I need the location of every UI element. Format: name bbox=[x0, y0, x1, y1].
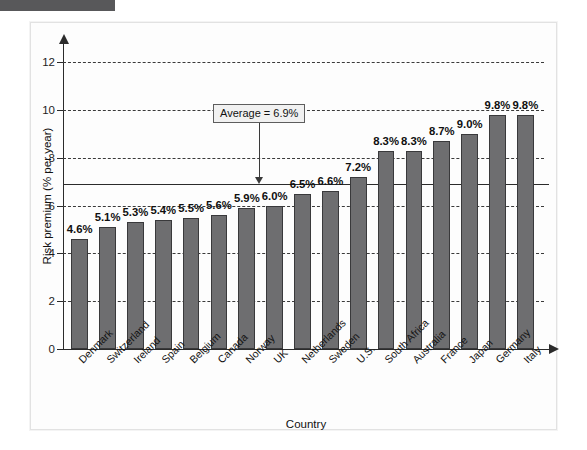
page-header-marker bbox=[0, 0, 115, 11]
y-tick-label-4: 4 bbox=[37, 247, 55, 259]
bar bbox=[378, 151, 395, 349]
bar-series: 4.6%5.1%5.3%5.4%5.5%5.6%5.9%6.0%6.5%6.6%… bbox=[63, 43, 549, 349]
bar-value-label: 9.8% bbox=[512, 99, 538, 111]
plot-area: 024681012 Average = 6.9% 4.6%5.1%5.3%5.4… bbox=[63, 43, 549, 349]
bar bbox=[350, 177, 367, 349]
y-tick-label-10: 10 bbox=[37, 104, 55, 116]
bar-value-label: 8.3% bbox=[373, 135, 399, 147]
bar-value-label: 6.5% bbox=[290, 178, 316, 190]
y-axis-title: Risk premium (% per year) bbox=[41, 128, 53, 265]
figure-stage: Risk premium (% per year) 024681012 Aver… bbox=[0, 0, 587, 450]
bar-value-label: 5.5% bbox=[178, 202, 204, 214]
bar-value-label: 5.9% bbox=[234, 192, 260, 204]
bar-value-label: 9.8% bbox=[485, 99, 511, 111]
bar bbox=[294, 194, 311, 349]
y-tick-label-0: 0 bbox=[37, 343, 55, 355]
bar bbox=[517, 115, 534, 349]
chart-panel: Risk premium (% per year) 024681012 Aver… bbox=[30, 22, 557, 430]
bar-value-label: 5.4% bbox=[150, 204, 176, 216]
y-tick-label-2: 2 bbox=[37, 295, 55, 307]
bar-value-label: 5.1% bbox=[95, 211, 121, 223]
bar bbox=[266, 206, 283, 349]
bar-value-label: 6.0% bbox=[262, 190, 288, 202]
bar-value-label: 5.6% bbox=[206, 199, 232, 211]
y-tick-label-8: 8 bbox=[37, 152, 55, 164]
bar bbox=[433, 141, 450, 349]
bar-value-label: 9.0% bbox=[457, 118, 483, 130]
bar-value-label: 8.3% bbox=[401, 135, 427, 147]
bar-value-label: 7.2% bbox=[345, 161, 371, 173]
bar bbox=[71, 239, 88, 349]
x-axis-arrow bbox=[549, 344, 559, 354]
bar-value-label: 4.6% bbox=[67, 223, 93, 235]
y-tick-label-6: 6 bbox=[37, 200, 55, 212]
bar bbox=[238, 208, 255, 349]
bar-value-label: 6.6% bbox=[317, 175, 343, 187]
bar-value-label: 8.7% bbox=[429, 125, 455, 137]
bar bbox=[461, 134, 478, 349]
bar bbox=[489, 115, 506, 349]
bar-value-label: 5.3% bbox=[123, 206, 149, 218]
bar bbox=[155, 220, 172, 349]
y-tick-label-12: 12 bbox=[37, 56, 55, 68]
x-axis-title: Country bbox=[63, 418, 549, 430]
y-tick-0 bbox=[57, 349, 63, 350]
bar bbox=[183, 218, 200, 349]
